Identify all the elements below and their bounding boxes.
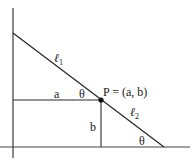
angle-theta-at-x-axis-label: θ bbox=[139, 134, 145, 148]
segment-b-label: b bbox=[90, 120, 96, 134]
diagram-canvas: P = (a, b) ℓ1 ℓ2 a θ b θ bbox=[0, 0, 192, 161]
angle-theta-at-p-label: θ bbox=[79, 87, 85, 101]
point-p-label: P = (a, b) bbox=[103, 85, 147, 99]
segment-a-label: a bbox=[54, 87, 60, 101]
line-l2-label: ℓ2 bbox=[130, 105, 139, 121]
line-l1-subscript: 1 bbox=[59, 58, 63, 67]
line-l2-subscript: 2 bbox=[135, 112, 139, 121]
line-l1-label: ℓ1 bbox=[54, 51, 63, 67]
